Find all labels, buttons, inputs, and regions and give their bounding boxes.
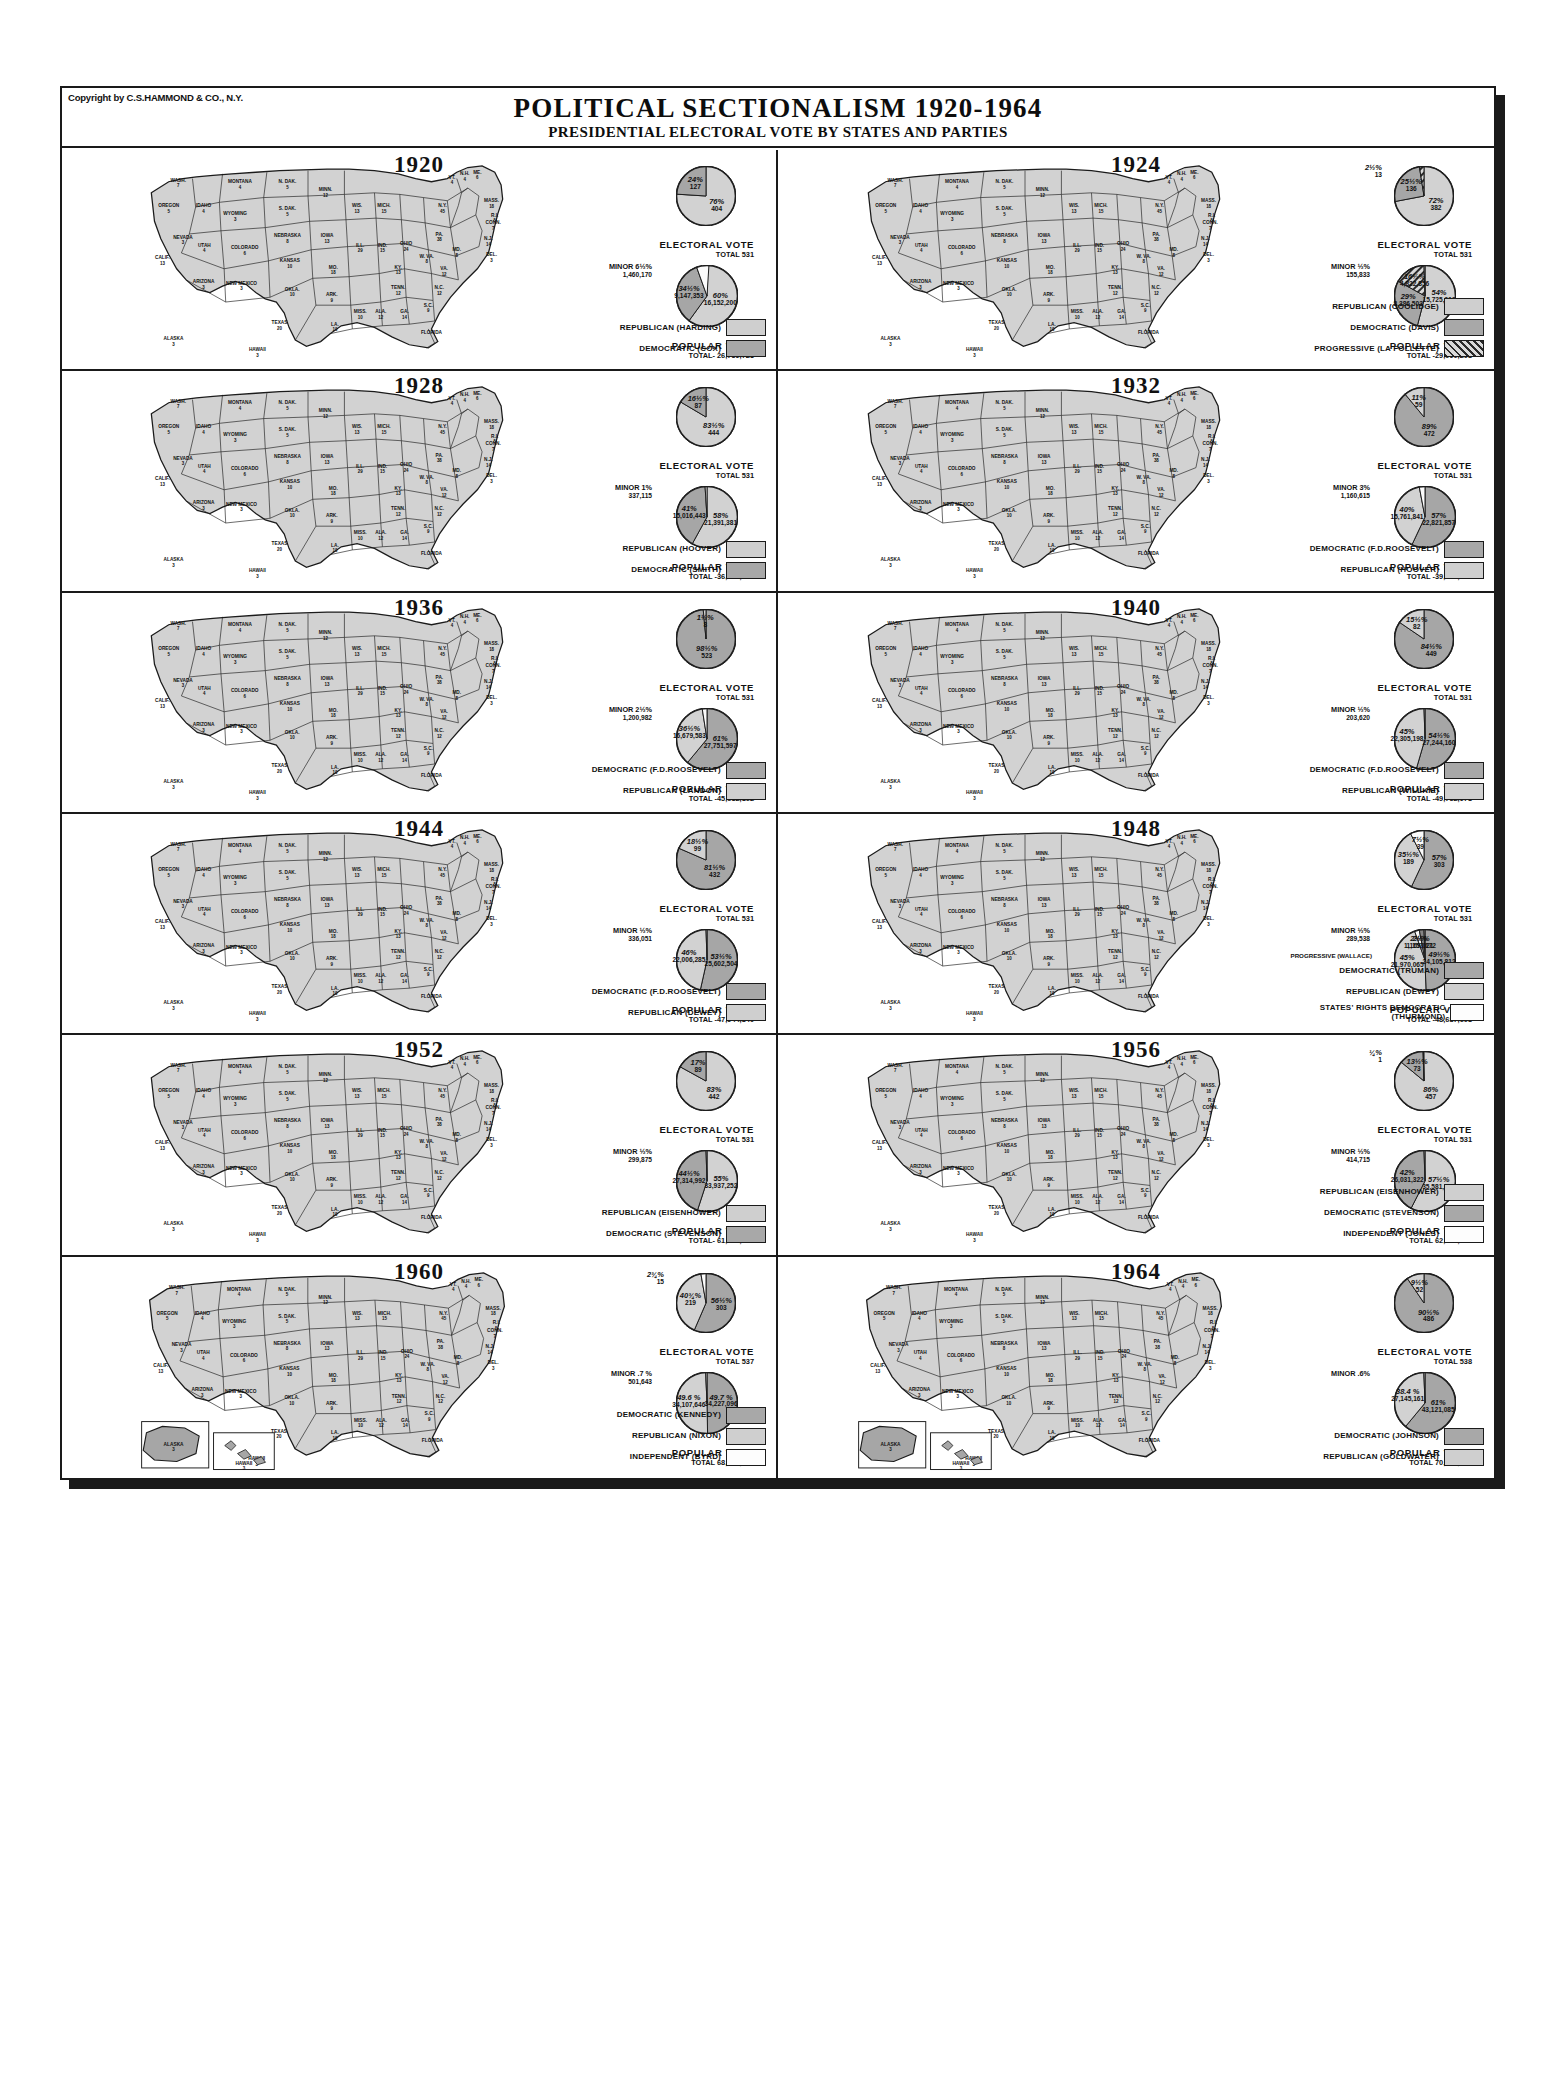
svg-text:24: 24 (404, 1354, 409, 1359)
legend-row[interactable]: REPUBLICAN (LANDON) (592, 783, 766, 800)
panel-stats: 72%38225½%136 2½%13 ELECTORAL VOTE TOTAL… (1294, 164, 1490, 365)
svg-text:MASS.: MASS. (484, 198, 499, 203)
svg-text:IDAHO: IDAHO (913, 203, 929, 208)
legend-row[interactable]: REPUBLICAN (NIXON) (617, 1428, 766, 1445)
legend-row[interactable]: REPUBLICAN (EISENHOWER) (602, 1205, 766, 1222)
us-map-1944[interactable]: WASH.7OREGON5CALIF.13NEVADA3IDAHO4MONTAN… (70, 822, 584, 1029)
svg-text:15: 15 (1097, 469, 1102, 474)
us-map-1924[interactable]: WASH.7OREGON5CALIF.13NEVADA3IDAHO4MONTAN… (786, 158, 1302, 365)
svg-text:N.J.: N.J. (1201, 679, 1210, 684)
svg-text:10: 10 (1004, 707, 1009, 712)
svg-text:NEW MEXICO: NEW MEXICO (226, 945, 257, 950)
svg-text:N.Y.: N.Y. (438, 424, 447, 429)
svg-text:18: 18 (331, 713, 336, 718)
legend-row[interactable]: REPUBLICAN (EISENHOWER) (1320, 1184, 1484, 1201)
svg-text:38: 38 (437, 901, 442, 906)
us-map-1932[interactable]: WASH.7OREGON5CALIF.13NEVADA3IDAHO4MONTAN… (786, 379, 1302, 586)
legend-row[interactable]: DEMOCRATIC (F.D.ROOSEVELT) (1310, 541, 1484, 558)
svg-text:45: 45 (1157, 873, 1162, 878)
svg-text:N. DAK.: N. DAK. (279, 622, 297, 627)
svg-text:TENN.: TENN. (391, 1171, 405, 1176)
legend-row[interactable]: DEMOCRATIC (KENNEDY) (617, 1407, 766, 1424)
legend-row[interactable]: DEMOCRATIC (DAVIS) (1314, 319, 1484, 336)
svg-text:IDAHO: IDAHO (913, 867, 929, 872)
svg-text:R.I.: R.I. (491, 877, 498, 882)
legend-row[interactable]: DEMOCRATIC (F.D.ROOSEVELT) (1310, 762, 1484, 779)
svg-text:12: 12 (396, 734, 401, 739)
legend-row[interactable]: REPUBLICAN (HOOVER) (623, 541, 766, 558)
svg-text:13: 13 (158, 1369, 163, 1374)
legend-row[interactable]: DEMOCRATIC (JOHNSON) (1323, 1428, 1484, 1445)
svg-text:TENN.: TENN. (1108, 949, 1122, 954)
svg-text:13: 13 (877, 925, 882, 930)
legend-row[interactable]: DEMOCRATIC (F.D.ROOSEVELT) (592, 762, 766, 779)
svg-text:LA.: LA. (1048, 986, 1056, 991)
svg-text:3: 3 (889, 784, 892, 789)
us-map-1928[interactable]: WASH.7OREGON5CALIF.13NEVADA3IDAHO4MONTAN… (70, 379, 584, 586)
us-map-1920[interactable]: WASH.7OREGON5CALIF.13NEVADA3IDAHO4MONTAN… (70, 158, 584, 365)
us-map-1952[interactable]: WASH.7OREGON5CALIF.13NEVADA3IDAHO4MONTAN… (70, 1043, 584, 1250)
legend-row[interactable]: DEMOCRATIC (TRUMAN) (1294, 962, 1484, 979)
svg-text:UTAH: UTAH (198, 243, 211, 248)
svg-text:VT.: VT. (1166, 617, 1173, 622)
pie-slice-label: 17%89 (676, 1059, 720, 1074)
svg-text:10: 10 (1004, 1372, 1009, 1377)
svg-text:VT.: VT. (450, 1281, 457, 1286)
svg-text:38: 38 (1154, 680, 1159, 685)
svg-text:UTAH: UTAH (198, 464, 211, 469)
legend-row[interactable]: REPUBLICAN (WILLKIE) (1310, 783, 1484, 800)
legend-row[interactable]: DEMOCRATIC (STEVENSON) (602, 1226, 766, 1243)
svg-text:WASH.: WASH. (169, 1285, 185, 1290)
svg-text:ME.: ME. (1190, 170, 1198, 175)
legend-row[interactable]: DEMOCRATIC (F.D.ROOSEVELT) (592, 983, 766, 1000)
svg-text:KY.: KY. (395, 1373, 402, 1378)
svg-text:12: 12 (378, 315, 383, 320)
legend-row[interactable]: REPUBLICAN (HOOVER) (1310, 562, 1484, 579)
legend-row[interactable]: INDEPENDENT (BYRD) (617, 1449, 766, 1466)
election-panel-1932: 1932 WASH.7OREGON5CALIF.13NEVADA3IDAHO4M… (778, 371, 1494, 592)
svg-text:ILL.: ILL. (356, 243, 364, 248)
legend-row[interactable]: REPUBLICAN (COOLIDGE) (1314, 298, 1484, 315)
legend-row[interactable]: REPUBLICAN (HARDING) (620, 319, 766, 336)
us-map-1948[interactable]: WASH.7OREGON5CALIF.13NEVADA3IDAHO4MONTAN… (786, 822, 1302, 1029)
us-map-1936[interactable]: WASH.7OREGON5CALIF.13NEVADA3IDAHO4MONTAN… (70, 601, 584, 808)
svg-text:COLORADO: COLORADO (948, 245, 976, 250)
svg-text:IOWA: IOWA (321, 676, 334, 681)
panel-stats: 83%44217%89 ELECTORAL VOTE TOTAL 531 55%… (576, 1049, 772, 1250)
legend-row[interactable]: INDEPENDENT (JONES) (1320, 1226, 1484, 1243)
svg-text:N.C.: N.C. (435, 507, 444, 512)
legend-row[interactable]: STATES' RIGHTS DEMOCRATIC (THURMOND) (1294, 1004, 1484, 1021)
us-map-1956[interactable]: WASH.7OREGON5CALIF.13NEVADA3IDAHO4MONTAN… (786, 1043, 1302, 1250)
legend-row[interactable]: DEMOCRATIC (STEVENSON) (1320, 1205, 1484, 1222)
us-map-1940[interactable]: WASH.7OREGON5CALIF.13NEVADA3IDAHO4MONTAN… (786, 601, 1302, 808)
legend-row[interactable]: REPUBLICAN (DEWEY) (592, 1004, 766, 1021)
svg-text:R.I.: R.I. (1210, 1320, 1217, 1325)
svg-text:MO.: MO. (1046, 929, 1055, 934)
legend-row[interactable]: DEMOCRATIC (COX) (620, 340, 766, 357)
legend-swatch (1444, 541, 1484, 558)
svg-text:14: 14 (486, 906, 491, 911)
legend-row[interactable]: REPUBLICAN (DEWEY) (1294, 983, 1484, 1000)
svg-text:29: 29 (1075, 691, 1080, 696)
us-map-1960[interactable]: WASH.7OREGON5CALIF.13NEVADA3IDAHO4MONTAN… (70, 1265, 584, 1474)
legend-row[interactable]: REPUBLICAN (GOLDWATER) (1323, 1449, 1484, 1466)
svg-text:MINN.: MINN. (319, 851, 332, 856)
svg-text:18: 18 (1048, 1156, 1053, 1161)
svg-text:WIS.: WIS. (352, 867, 362, 872)
svg-text:WASH.: WASH. (887, 620, 903, 625)
svg-text:13: 13 (1072, 1316, 1077, 1321)
pie-slice-label: 34½%9,147,353 (667, 285, 711, 300)
svg-text:MD.: MD. (1169, 911, 1178, 916)
svg-text:NEVADA: NEVADA (173, 235, 193, 240)
svg-text:GA.: GA. (1117, 530, 1125, 535)
svg-text:GA.: GA. (1118, 1417, 1127, 1422)
svg-text:12: 12 (323, 1078, 328, 1083)
svg-text:12: 12 (1040, 193, 1045, 198)
legend-row[interactable]: DEMOCRATIC (SMITH) (623, 562, 766, 579)
legend-row[interactable]: PROGRESSIVE (LA FOLLETTE) (1314, 340, 1484, 357)
svg-text:OKLA.: OKLA. (1002, 287, 1017, 292)
svg-text:TENN.: TENN. (1109, 1393, 1123, 1398)
svg-text:3: 3 (1207, 258, 1210, 263)
us-map-1964[interactable]: WASH.7OREGON5CALIF.13NEVADA3IDAHO4MONTAN… (786, 1265, 1302, 1474)
svg-text:15: 15 (382, 209, 387, 214)
